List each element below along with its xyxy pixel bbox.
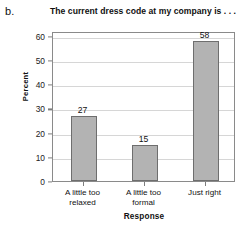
y-tick-mark	[48, 133, 52, 134]
bar-value-label: 58	[185, 30, 225, 40]
x-tick-mark	[205, 182, 206, 186]
x-category-label: A little toorelaxed	[52, 188, 114, 207]
x-category-line: A little too	[113, 188, 175, 198]
y-tick-mark	[48, 36, 52, 37]
panel-letter: b.	[5, 5, 15, 17]
chart-title: The current dress code at my company is …	[40, 6, 246, 16]
y-tick-label: 30	[5, 104, 45, 114]
bar-value-label: 15	[124, 134, 164, 144]
y-tick-label: 50	[5, 56, 45, 66]
y-tick-mark	[48, 85, 52, 86]
x-axis-label: Response	[52, 212, 236, 221]
x-category-label: A little tooformal	[113, 188, 175, 207]
x-category-label: Just right	[174, 188, 236, 198]
y-tick-mark	[48, 60, 52, 61]
y-tick-mark	[48, 157, 52, 158]
x-category-line: Just right	[174, 188, 236, 198]
y-tick-mark	[48, 109, 52, 110]
x-category-line: relaxed	[52, 198, 114, 208]
y-tick-label: 40	[5, 80, 45, 90]
x-tick-mark	[144, 182, 145, 186]
y-tick-label: 10	[5, 153, 45, 163]
figure-panel: b. The current dress code at my company …	[0, 0, 246, 229]
bar[interactable]	[71, 116, 97, 181]
bar[interactable]	[193, 41, 219, 181]
y-tick-label: 0	[5, 177, 45, 187]
y-tick-mark	[48, 181, 52, 182]
bar-value-label: 27	[63, 105, 103, 115]
y-tick-label: 60	[5, 32, 45, 42]
bar[interactable]	[132, 145, 158, 181]
y-tick-label: 20	[5, 129, 45, 139]
x-category-line: A little too	[52, 188, 114, 198]
x-tick-mark	[83, 182, 84, 186]
x-category-line: formal	[113, 198, 175, 208]
